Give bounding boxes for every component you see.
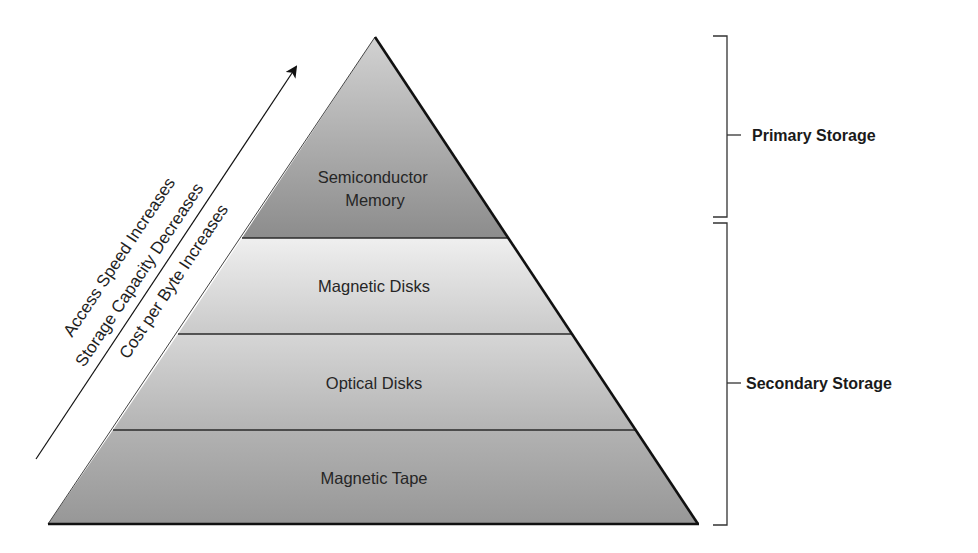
bracket-primary-storage: Primary Storage xyxy=(713,36,876,217)
layer-label-optical-disks: Optical Disks xyxy=(326,374,422,392)
layer-label-magnetic-tape: Magnetic Tape xyxy=(320,469,427,487)
storage-hierarchy-diagram: Semiconductor Memory Magnetic Disks Opti… xyxy=(0,0,978,553)
primary-storage-label: Primary Storage xyxy=(752,127,876,144)
secondary-storage-label: Secondary Storage xyxy=(746,375,892,392)
layer-label-magnetic-disks: Magnetic Disks xyxy=(318,277,430,295)
bracket-secondary-storage: Secondary Storage xyxy=(713,223,892,525)
